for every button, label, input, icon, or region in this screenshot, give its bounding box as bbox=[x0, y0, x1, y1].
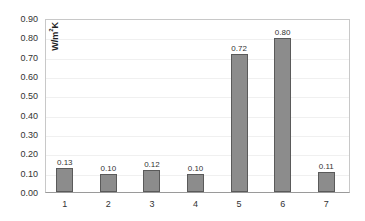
x-tick-label: 4 bbox=[186, 199, 206, 209]
y-tick-label: 0.90 bbox=[0, 14, 38, 24]
gridline bbox=[46, 59, 349, 60]
bar-value-label: 0.80 bbox=[268, 28, 298, 37]
bar-value-label: 0.10 bbox=[181, 164, 211, 173]
gridline bbox=[46, 136, 349, 137]
y-axis-label: W/m2K bbox=[48, 22, 60, 51]
bar-6 bbox=[274, 38, 291, 192]
bar-4 bbox=[187, 174, 204, 192]
bar-chart: 0.000.100.200.300.400.500.600.700.800.90… bbox=[0, 0, 365, 221]
gridline bbox=[46, 117, 349, 118]
x-tick-label: 3 bbox=[142, 199, 162, 209]
bar-5 bbox=[231, 54, 248, 192]
y-tick-label: 0.00 bbox=[0, 188, 38, 198]
bar-3 bbox=[143, 170, 160, 192]
bar-value-label: 0.13 bbox=[50, 158, 80, 167]
bar-1 bbox=[56, 168, 73, 192]
gridline bbox=[46, 39, 349, 40]
gridline bbox=[46, 155, 349, 156]
gridline bbox=[46, 78, 349, 79]
y-tick-label: 0.20 bbox=[0, 149, 38, 159]
bar-value-label: 0.72 bbox=[224, 44, 254, 53]
bar-value-label: 0.12 bbox=[137, 160, 167, 169]
bar-value-label: 0.11 bbox=[311, 162, 341, 171]
x-tick-label: 2 bbox=[98, 199, 118, 209]
bar-value-label: 0.10 bbox=[93, 164, 123, 173]
x-tick-label: 6 bbox=[273, 199, 293, 209]
y-tick-label: 0.60 bbox=[0, 72, 38, 82]
x-tick-label: 5 bbox=[229, 199, 249, 209]
x-tick-label: 7 bbox=[316, 199, 336, 209]
y-tick-label: 0.30 bbox=[0, 130, 38, 140]
gridline bbox=[46, 97, 349, 98]
y-tick-label: 0.70 bbox=[0, 53, 38, 63]
y-tick-label: 0.80 bbox=[0, 33, 38, 43]
y-tick-label: 0.10 bbox=[0, 169, 38, 179]
y-tick-label: 0.40 bbox=[0, 111, 38, 121]
y-tick-label: 0.50 bbox=[0, 91, 38, 101]
bar-2 bbox=[100, 174, 117, 192]
x-tick-label: 1 bbox=[55, 199, 75, 209]
bar-7 bbox=[318, 172, 335, 192]
